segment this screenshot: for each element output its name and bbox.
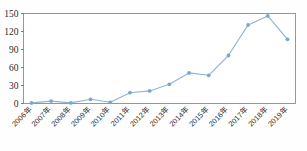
data-point-marker	[227, 54, 231, 58]
y-tick-label: 30	[9, 81, 19, 91]
y-axis-tick-labels: 0306090120150	[4, 9, 19, 109]
data-point-marker	[30, 101, 34, 105]
y-tick-label: 120	[4, 27, 19, 37]
data-point-marker	[167, 82, 171, 86]
x-tick-label: 2008年	[49, 105, 73, 129]
line-chart: 0306090120150 2006年2007年2008年2009年2010年2…	[0, 0, 307, 151]
data-point-marker	[128, 91, 132, 95]
x-tick-label: 2010年	[89, 105, 113, 129]
x-tick-label: 2016年	[207, 105, 231, 129]
x-tick-label: 2014年	[168, 105, 192, 129]
x-tick-label: 2017年	[227, 105, 251, 129]
x-tick-label: 2012年	[128, 105, 152, 129]
y-tick-label: 150	[4, 9, 19, 19]
data-point-marker	[148, 89, 152, 93]
data-point-marker	[49, 99, 53, 103]
x-tick-label: 2019年	[266, 105, 290, 129]
data-point-marker	[108, 100, 112, 104]
data-point-marker	[187, 71, 191, 75]
plot-area-frame	[24, 14, 296, 104]
x-tick-label: 2007年	[30, 105, 54, 129]
y-tick-label: 90	[9, 45, 19, 55]
y-tick-label: 0	[14, 99, 19, 109]
x-tick-label: 2011年	[109, 105, 132, 128]
data-point-marker	[89, 97, 93, 101]
data-point-marker	[207, 73, 211, 77]
x-tick-label: 2015年	[187, 105, 211, 129]
data-point-marker	[246, 23, 250, 27]
x-tick-label: 2018年	[246, 105, 270, 129]
chart-container: 0306090120150 2006年2007年2008年2009年2010年2…	[0, 0, 307, 151]
y-tick-label: 60	[9, 63, 19, 73]
x-axis-tick-labels: 2006年2007年2008年2009年2010年2011年2012年2013年…	[10, 105, 290, 129]
data-point-marker	[286, 37, 290, 41]
x-tick-label: 2009年	[69, 105, 93, 129]
data-point-marker	[266, 14, 270, 18]
data-point-marker	[69, 101, 73, 105]
x-tick-label: 2013年	[148, 105, 172, 129]
